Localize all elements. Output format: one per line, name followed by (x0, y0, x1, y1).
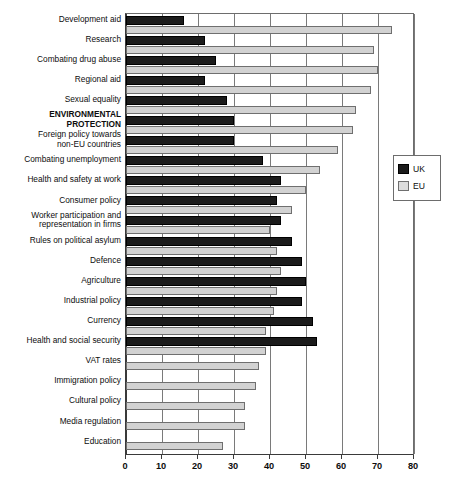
x-axis: 01020304050607080 (125, 455, 414, 485)
category-label: Health and social security (0, 336, 121, 346)
legend: UK EU (393, 155, 441, 201)
legend-label-eu: EU (413, 181, 425, 191)
category-label: Regional aid (0, 75, 121, 85)
category-label: Foreign policy towardsnon-EU countries (0, 130, 121, 149)
category-label: Media regulation (0, 417, 121, 427)
category-label-line: Cultural policy (0, 396, 121, 406)
bar-group (126, 296, 413, 316)
bar-eu (126, 382, 256, 390)
category-label-line: Industrial policy (0, 296, 121, 306)
bar-group (126, 55, 413, 75)
bar-group (126, 115, 413, 135)
category-label-line: Development aid (0, 15, 121, 25)
bar-group (126, 195, 413, 215)
bar-eu (126, 287, 277, 295)
category-label-line: Consumer policy (0, 196, 121, 206)
bar-uk (126, 36, 205, 45)
x-tick-label-50: 50 (300, 461, 310, 471)
bar-uk (126, 136, 234, 145)
bar-group (126, 15, 413, 35)
bar-uk (126, 277, 306, 286)
category-label: Sexual equality (0, 95, 121, 105)
bar-uk (126, 116, 234, 125)
bar-uk (126, 337, 317, 346)
bar-group (126, 236, 413, 256)
bar-eu (126, 126, 353, 134)
bar-group (126, 75, 413, 95)
x-tick-label-30: 30 (228, 461, 238, 471)
bar-uk (126, 56, 216, 65)
category-label-line: Defence (0, 256, 121, 266)
bar-uk (126, 216, 281, 225)
category-label-line: Regional aid (0, 75, 121, 85)
x-tick-label-60: 60 (336, 461, 346, 471)
bar-uk (126, 156, 263, 165)
bar-group (126, 135, 413, 155)
bar-eu (126, 247, 277, 255)
chart-root: Development aidResearchCombating drug ab… (0, 0, 449, 488)
bar-group (126, 35, 413, 55)
plot-area (125, 13, 414, 455)
bar-group (126, 416, 413, 436)
bar-eu (126, 166, 320, 174)
legend-swatch-eu (398, 181, 409, 191)
legend-item-eu: EU (398, 177, 440, 194)
category-label: VAT rates (0, 356, 121, 366)
x-tick-20 (197, 455, 198, 459)
category-label: Research (0, 35, 121, 45)
x-tick-label-20: 20 (192, 461, 202, 471)
bar-eu (126, 422, 245, 430)
x-tick-80 (413, 455, 414, 459)
category-label-line: Agriculture (0, 276, 121, 286)
category-label: Agriculture (0, 276, 121, 286)
category-label-line: Rules on political asylum (0, 236, 121, 246)
bar-uk (126, 237, 292, 246)
category-label-line: Media regulation (0, 417, 121, 427)
bar-uk (126, 76, 205, 85)
gridline-80 (414, 14, 415, 454)
x-tick-50 (305, 455, 306, 459)
category-label: Combating drug abuse (0, 55, 121, 65)
x-tick-10 (161, 455, 162, 459)
bar-eu (126, 186, 306, 194)
bar-eu (126, 206, 292, 214)
bar-group (126, 95, 413, 115)
x-tick-label-70: 70 (372, 461, 382, 471)
category-label-line: Combating unemployment (0, 155, 121, 165)
category-label: Defence (0, 256, 121, 266)
category-label-line: VAT rates (0, 356, 121, 366)
category-label: Combating unemployment (0, 155, 121, 165)
category-label: Immigration policy (0, 376, 121, 386)
bar-group (126, 376, 413, 396)
bar-eu (126, 307, 274, 315)
x-tick-70 (377, 455, 378, 459)
bar-uk (126, 317, 313, 326)
x-tick-label-10: 10 (156, 461, 166, 471)
category-label-line: Health and safety at work (0, 175, 121, 185)
bar-eu (126, 66, 378, 74)
category-label: Rules on political asylum (0, 236, 121, 246)
category-label: Industrial policy (0, 296, 121, 306)
bar-uk (126, 96, 227, 105)
category-label-line: Currency (0, 316, 121, 326)
x-tick-label-80: 80 (408, 461, 418, 471)
category-label: Health and safety at work (0, 175, 121, 185)
category-label: ENVIRONMENTALPROTECTION (0, 110, 121, 129)
x-tick-30 (233, 455, 234, 459)
bar-eu (126, 46, 374, 54)
category-label-line: Research (0, 35, 121, 45)
legend-label-uk: UK (413, 164, 425, 174)
category-label: Education (0, 437, 121, 447)
category-label-line: PROTECTION (0, 120, 121, 130)
bar-eu (126, 402, 245, 410)
bar-group (126, 175, 413, 195)
bar-eu (126, 327, 266, 335)
bar-group (126, 436, 413, 456)
x-tick-0 (125, 455, 126, 459)
category-label: Development aid (0, 15, 121, 25)
bar-group (126, 356, 413, 376)
bar-uk (126, 176, 281, 185)
x-tick-label-0: 0 (122, 461, 127, 471)
bar-eu (126, 347, 266, 355)
category-label-line: Immigration policy (0, 376, 121, 386)
